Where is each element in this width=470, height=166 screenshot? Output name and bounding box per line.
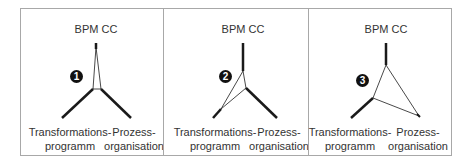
left-label-transformationsprogramm: Transformations- programm bbox=[27, 125, 113, 153]
left-label-transformationsprogramm: Transformations- programm bbox=[172, 125, 258, 153]
right-label-prozessorganisation: Prozess- organisation bbox=[248, 125, 310, 153]
left-label-transformationsprogramm: Transformations- programm bbox=[307, 125, 393, 153]
panel-2: BPM CC 2 Transformations- programm Proze… bbox=[163, 8, 309, 156]
panel-1: BPM CC 1 Transformations- programm Proze… bbox=[20, 8, 164, 156]
right-label-prozessorganisation: Prozess- organisation bbox=[387, 125, 449, 153]
right-label-prozessorganisation: Prozess- organisation bbox=[103, 125, 165, 153]
panel-3: BPM CC 3 Transformations- programm Proze… bbox=[308, 8, 452, 156]
